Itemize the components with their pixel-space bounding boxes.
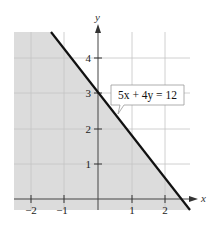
y-tick-label: 1 [86,158,92,170]
equation-callout: 5x + 4y = 12 [111,85,184,114]
x-tick-label: 2 [162,204,168,216]
x-axis-arrow-icon [189,196,198,202]
y-tick-label: 4 [86,52,92,64]
shaded-region [14,32,190,210]
x-axis-label: x [200,192,206,204]
x-tick-label: 1 [129,204,135,216]
y-tick-label: 3 [86,87,92,99]
y-tick-label: 2 [86,123,92,135]
x-tick-label: −1 [56,204,68,216]
y-axis-arrow-icon [95,24,101,33]
equation-label: 5x + 4y = 12 [118,89,177,102]
x-tick-label: −2 [25,204,37,216]
y-axis-label: y [94,11,100,23]
graph: −2 −1 1 2 1 2 3 4 x y 5x + 4y = 12 [0,0,217,226]
